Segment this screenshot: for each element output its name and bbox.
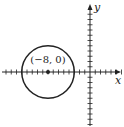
x-axis [2, 70, 122, 75]
center-point [46, 70, 50, 74]
y-axis-label: y [93, 1, 101, 14]
coordinate-plane-diagram: (−8, 0) x y [0, 0, 124, 127]
y-axis-arrow-icon [88, 4, 93, 10]
center-point-label: (−8, 0) [30, 54, 65, 65]
y-axis [88, 4, 93, 126]
x-axis-label: x [115, 74, 122, 87]
